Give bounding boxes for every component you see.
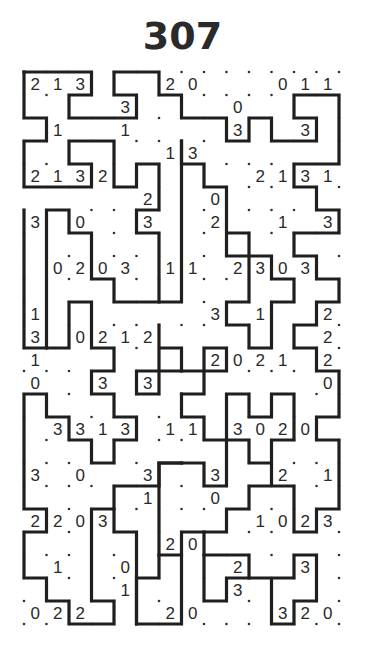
grid-cell[interactable] <box>272 394 295 417</box>
grid-cell[interactable] <box>114 279 137 302</box>
grid-cell[interactable] <box>92 95 115 118</box>
grid-cell[interactable] <box>182 302 205 325</box>
grid-cell[interactable] <box>317 279 340 302</box>
grid-cell[interactable] <box>182 555 205 578</box>
grid-cell[interactable] <box>47 302 70 325</box>
grid-cell[interactable] <box>204 118 227 141</box>
grid-cell[interactable] <box>204 417 227 440</box>
grid-cell[interactable] <box>24 440 47 463</box>
grid-cell[interactable] <box>69 348 92 371</box>
grid-cell[interactable] <box>92 279 115 302</box>
grid-cell[interactable] <box>47 486 70 509</box>
grid-cell[interactable] <box>249 95 272 118</box>
grid-cell[interactable] <box>294 371 317 394</box>
grid-cell[interactable] <box>272 95 295 118</box>
grid-cell[interactable] <box>182 509 205 532</box>
grid-cell[interactable] <box>69 187 92 210</box>
grid-cell[interactable] <box>137 509 160 532</box>
grid-cell[interactable] <box>159 95 182 118</box>
grid-cell[interactable] <box>114 394 137 417</box>
grid-cell[interactable] <box>114 210 137 233</box>
grid-cell[interactable] <box>47 187 70 210</box>
grid-cell[interactable] <box>92 302 115 325</box>
grid-cell[interactable] <box>317 486 340 509</box>
grid-cell[interactable] <box>137 95 160 118</box>
grid-cell[interactable] <box>114 601 137 624</box>
grid-cell[interactable] <box>159 348 182 371</box>
grid-cell[interactable] <box>24 279 47 302</box>
grid-cell[interactable] <box>249 394 272 417</box>
grid-cell[interactable] <box>204 394 227 417</box>
grid-cell[interactable] <box>47 348 70 371</box>
grid-cell[interactable] <box>137 141 160 164</box>
grid-cell[interactable] <box>114 233 137 256</box>
grid-cell[interactable] <box>272 141 295 164</box>
grid-cell[interactable] <box>204 601 227 624</box>
grid-cell[interactable] <box>92 141 115 164</box>
grid-cell[interactable] <box>317 95 340 118</box>
grid-cell[interactable] <box>137 532 160 555</box>
grid-cell[interactable] <box>317 187 340 210</box>
grid-cell[interactable] <box>249 210 272 233</box>
grid-cell[interactable] <box>272 486 295 509</box>
grid-cell[interactable] <box>182 578 205 601</box>
grid-cell[interactable] <box>47 279 70 302</box>
grid-cell[interactable] <box>47 440 70 463</box>
grid-cell[interactable] <box>294 394 317 417</box>
grid-cell[interactable] <box>317 417 340 440</box>
grid-cell[interactable] <box>159 463 182 486</box>
grid-cell[interactable] <box>159 233 182 256</box>
grid-cell[interactable] <box>182 279 205 302</box>
grid-cell[interactable] <box>47 141 70 164</box>
grid-cell[interactable] <box>227 440 250 463</box>
grid-cell[interactable] <box>114 72 137 95</box>
grid-cell[interactable] <box>317 578 340 601</box>
grid-cell[interactable] <box>204 578 227 601</box>
grid-cell[interactable] <box>294 95 317 118</box>
grid-cell[interactable] <box>249 486 272 509</box>
grid-cell[interactable] <box>204 256 227 279</box>
grid-cell[interactable] <box>294 440 317 463</box>
grid-cell[interactable] <box>24 555 47 578</box>
grid-cell[interactable] <box>227 509 250 532</box>
grid-cell[interactable] <box>137 118 160 141</box>
grid-cell[interactable] <box>159 394 182 417</box>
grid-cell[interactable] <box>249 187 272 210</box>
grid-cell[interactable] <box>159 210 182 233</box>
grid-cell[interactable] <box>114 532 137 555</box>
grid-cell[interactable] <box>227 141 250 164</box>
grid-cell[interactable] <box>317 394 340 417</box>
grid-cell[interactable] <box>159 578 182 601</box>
grid-cell[interactable] <box>294 279 317 302</box>
grid-cell[interactable] <box>227 601 250 624</box>
grid-cell[interactable] <box>204 532 227 555</box>
grid-cell[interactable] <box>249 118 272 141</box>
grid-cell[interactable] <box>204 72 227 95</box>
grid-cell[interactable] <box>69 279 92 302</box>
grid-cell[interactable] <box>69 233 92 256</box>
grid-cell[interactable] <box>182 325 205 348</box>
grid-cell[interactable] <box>92 210 115 233</box>
grid-cell[interactable] <box>114 509 137 532</box>
grid-cell[interactable] <box>272 371 295 394</box>
grid-cell[interactable] <box>92 118 115 141</box>
grid-cell[interactable] <box>272 233 295 256</box>
grid-cell[interactable] <box>92 555 115 578</box>
grid-cell[interactable] <box>182 187 205 210</box>
grid-cell[interactable] <box>249 325 272 348</box>
grid-cell[interactable] <box>92 463 115 486</box>
grid-cell[interactable] <box>47 233 70 256</box>
grid-cell[interactable] <box>159 187 182 210</box>
grid-cell[interactable] <box>137 394 160 417</box>
grid-cell[interactable] <box>249 233 272 256</box>
grid-cell[interactable] <box>159 279 182 302</box>
grid-cell[interactable] <box>159 118 182 141</box>
grid-cell[interactable] <box>24 233 47 256</box>
grid-cell[interactable] <box>182 210 205 233</box>
grid-cell[interactable] <box>69 578 92 601</box>
grid-cell[interactable] <box>317 256 340 279</box>
grid-cell[interactable] <box>204 325 227 348</box>
grid-cell[interactable] <box>227 72 250 95</box>
grid-cell[interactable] <box>92 578 115 601</box>
grid-cell[interactable] <box>294 348 317 371</box>
